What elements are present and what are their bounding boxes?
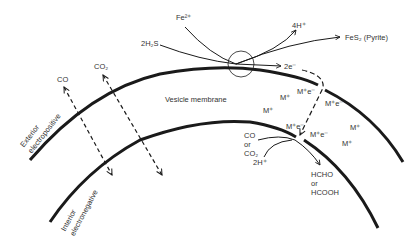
substrate-line3: CO₂	[244, 149, 258, 158]
ion-electron-pair-2: M⁺e⁻	[325, 100, 343, 108]
4h-label: 4H⁺	[292, 22, 306, 30]
ion-electron-pair-1: M⁺e⁻	[297, 88, 315, 96]
substrate-line1: CO	[244, 131, 258, 140]
co2-diffusion-arrow	[103, 75, 162, 175]
cation-2: M⁺	[263, 107, 273, 115]
h2s-label: 2H₂S	[141, 40, 159, 48]
to-pyrite-arrow	[236, 37, 340, 64]
substrate-line2: or	[244, 140, 258, 149]
ion-electron-pair-3: M⁺e⁻	[286, 123, 304, 131]
membrane-label: Vesicle membrane	[165, 96, 227, 104]
product-line1: HCHO	[311, 170, 339, 179]
cation-4: M⁺	[342, 140, 352, 148]
fe-curve	[185, 27, 236, 64]
h2s-curve	[160, 45, 236, 64]
cation-3: M⁺	[350, 124, 360, 132]
product-label: HCHO or HCOOH	[311, 170, 339, 197]
fe-label: Fe²⁺	[176, 14, 191, 22]
substrate-label: CO or CO₂	[244, 131, 258, 158]
pyrite-label: FeS₂ (Pyrite)	[345, 34, 388, 42]
product-line3: HCOOH	[311, 188, 339, 197]
outer-membrane	[30, 68, 318, 160]
product-line2: or	[311, 179, 339, 188]
to-electrons-arrow	[236, 64, 281, 66]
protons-curve	[264, 140, 292, 157]
ion-electron-pair-4: M⁺e⁻	[310, 131, 328, 139]
co-label: CO	[57, 76, 68, 84]
co2-label: CO₂	[94, 63, 108, 71]
protons-label: 2H⁺	[253, 159, 267, 167]
co-diffusion-arrow	[64, 87, 112, 175]
electrons-label: 2e⁻	[284, 63, 296, 71]
cation-1: M⁺	[280, 94, 290, 102]
